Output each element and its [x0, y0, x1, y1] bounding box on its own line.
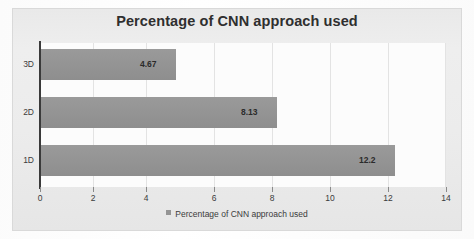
tick-mark-8	[272, 187, 273, 192]
gridline-14	[445, 43, 446, 187]
category-label-3d: 3D	[8, 49, 34, 80]
tick-label-12: 12	[377, 193, 399, 203]
tick-label-6: 6	[203, 193, 225, 203]
chart-screenshot: Percentage of CNN approach used 4.67 3D …	[0, 0, 474, 239]
chart-legend: Percentage of CNN approach used	[12, 208, 462, 219]
bar-1d	[41, 145, 395, 176]
category-label-1d: 1D	[8, 145, 34, 176]
tick-mark-14	[446, 187, 447, 192]
tick-mark-4	[146, 187, 147, 192]
tick-mark-0	[40, 187, 41, 192]
bar-value-2d: 8.13	[241, 97, 258, 128]
category-label-2d: 2D	[8, 97, 34, 128]
tick-label-0: 0	[29, 193, 51, 203]
tick-label-4: 4	[135, 193, 157, 203]
bar-value-3d: 4.67	[140, 49, 157, 80]
tick-mark-10	[330, 187, 331, 192]
tick-mark-12	[388, 187, 389, 192]
tick-mark-2	[93, 187, 94, 192]
tick-label-8: 8	[261, 193, 283, 203]
tick-label-2: 2	[82, 193, 104, 203]
chart-title: Percentage of CNN approach used	[12, 13, 462, 29]
legend-swatch-icon	[166, 210, 171, 215]
tick-label-10: 10	[319, 193, 341, 203]
bar-value-1d: 12.2	[359, 145, 376, 176]
tick-label-14: 14	[435, 193, 457, 203]
legend-label: Percentage of CNN approach used	[175, 209, 307, 219]
tick-mark-6	[214, 187, 215, 192]
